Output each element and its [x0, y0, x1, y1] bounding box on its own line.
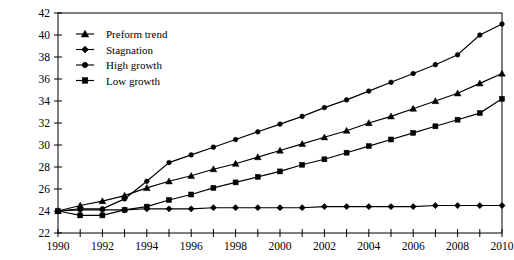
legend-label: Preform trend [106, 28, 168, 40]
data-point [433, 62, 438, 67]
data-point [277, 205, 283, 211]
x-axis-tick-label: 1992 [91, 240, 114, 252]
data-point [343, 203, 349, 209]
series-preform-trend [55, 70, 506, 214]
x-axis-tick-label: 1996 [180, 240, 203, 252]
data-point [189, 192, 194, 197]
data-point [300, 114, 305, 119]
data-point [476, 80, 483, 86]
data-point [210, 205, 216, 211]
data-point [255, 205, 261, 211]
x-axis-tick-label: 1994 [135, 240, 158, 252]
data-point [500, 22, 505, 27]
y-axis-tick-label: 26 [39, 183, 51, 195]
y-axis-tick-label: 22 [39, 227, 51, 239]
data-point [56, 209, 61, 214]
data-point [389, 80, 394, 85]
series-line [58, 74, 502, 212]
legend-marker-circle-icon [82, 62, 87, 67]
data-point [322, 157, 327, 162]
data-point [166, 206, 172, 212]
data-point [233, 137, 238, 142]
data-point [389, 137, 394, 142]
data-point [433, 124, 438, 129]
y-axis-tick-label: 32 [39, 117, 51, 129]
data-point [477, 202, 483, 208]
data-point [321, 203, 327, 209]
data-point [366, 203, 372, 209]
data-point [211, 185, 216, 190]
x-axis-tick-label: 2006 [402, 240, 425, 252]
data-point [410, 203, 416, 209]
data-point [100, 206, 105, 211]
data-point [188, 206, 194, 212]
data-point [255, 174, 260, 179]
legend-label: Stagnation [106, 44, 154, 56]
x-axis-tick-label: 1990 [47, 240, 70, 252]
data-point [167, 198, 172, 203]
data-point [322, 105, 327, 110]
data-point [300, 162, 305, 167]
data-point [455, 117, 460, 122]
y-axis-tick-label: 34 [39, 95, 51, 107]
y-axis-tick-label: 40 [39, 29, 51, 41]
y-axis-tick-label: 30 [39, 139, 51, 151]
x-axis-tick-label: 1998 [224, 240, 247, 252]
data-point [144, 204, 149, 209]
data-point [233, 180, 238, 185]
data-point [499, 202, 505, 208]
legend-marker-diamond-icon [82, 46, 89, 53]
x-axis-tick-label: 2008 [446, 240, 469, 252]
y-axis-tick-label: 38 [39, 51, 51, 63]
data-point [499, 70, 506, 76]
chart-canvas: 2224262830323436384042199019921994199619… [0, 0, 514, 260]
x-axis-tick-label: 2004 [357, 240, 380, 252]
data-point [211, 145, 216, 150]
y-axis-tick-label: 36 [39, 73, 51, 85]
data-point [366, 144, 371, 149]
data-point [411, 71, 416, 76]
data-point [122, 207, 127, 212]
legend-label: Low growth [106, 75, 161, 87]
data-point [78, 213, 83, 218]
data-point [278, 122, 283, 127]
x-axis-tick-label: 2000 [269, 240, 292, 252]
data-point [454, 90, 461, 96]
y-axis-tick-label: 42 [39, 7, 51, 19]
data-point [455, 52, 460, 57]
x-axis-tick-label: 2002 [313, 240, 336, 252]
data-point [100, 213, 105, 218]
data-point [388, 203, 394, 209]
line-chart: 2224262830323436384042199019921994199619… [0, 0, 514, 260]
data-point [122, 197, 127, 202]
legend-marker-square-icon [82, 78, 88, 84]
data-point [344, 150, 349, 155]
data-point [477, 33, 482, 38]
data-point [232, 205, 238, 211]
data-point [454, 202, 460, 208]
x-axis-tick-label: 2010 [491, 240, 514, 252]
data-point [477, 111, 482, 116]
data-point [366, 89, 371, 94]
chart-legend: Preform trendStagnationHigh growthLow gr… [76, 28, 168, 87]
data-point [299, 205, 305, 211]
y-axis-tick-label: 24 [39, 205, 51, 217]
legend-label: High growth [106, 59, 162, 71]
data-point [78, 206, 83, 211]
data-point [500, 96, 505, 101]
y-axis-tick-label: 28 [39, 161, 51, 173]
data-point [167, 160, 172, 165]
data-point [278, 169, 283, 174]
data-point [144, 179, 149, 184]
data-point [432, 202, 438, 208]
data-point [189, 153, 194, 158]
data-point [344, 98, 349, 103]
data-point [411, 130, 416, 135]
data-point [255, 129, 260, 134]
